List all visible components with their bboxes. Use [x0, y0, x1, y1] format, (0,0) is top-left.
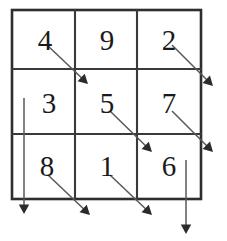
- vertical-arrow-left-column: [19, 98, 29, 214]
- cell-r2-c0: 8: [30, 152, 64, 181]
- cell-r1-c2: 7: [152, 89, 186, 118]
- cell-r1-c0: 3: [32, 89, 66, 118]
- cell-r1-c1: 5: [90, 89, 124, 118]
- diagonal-arrow-bottom-center: [110, 175, 152, 215]
- cell-r2-c2: 6: [152, 152, 186, 181]
- cell-r2-c1: 1: [90, 152, 124, 181]
- vertical-arrow-right-column-head: [181, 225, 191, 235]
- vertical-arrow-left-column-head: [19, 205, 29, 215]
- cell-r0-c2: 2: [152, 26, 186, 55]
- arrows-group: [19, 45, 213, 234]
- diagonal-arrow-bottom-left: [48, 175, 90, 215]
- magic-square-diagram: 492357816: [0, 0, 227, 241]
- cell-r0-c0: 4: [28, 26, 62, 55]
- cell-r0-c1: 9: [90, 26, 124, 55]
